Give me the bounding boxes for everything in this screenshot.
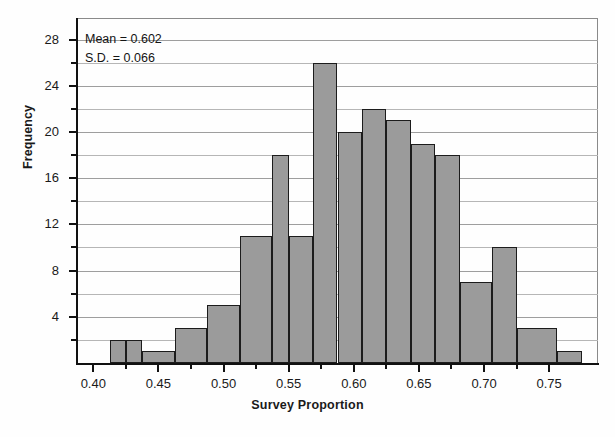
y-tick-minor <box>71 154 77 156</box>
x-tick-major <box>353 363 355 372</box>
x-tick-label: 0.55 <box>276 376 301 391</box>
histogram-bar <box>517 328 558 363</box>
x-tick-minor <box>190 363 192 369</box>
histogram-bar <box>240 236 273 363</box>
plot-frame-right <box>597 18 598 363</box>
histogram-bar <box>386 120 410 363</box>
y-tick-major: 28 <box>69 39 77 41</box>
y-tick-major: 16 <box>69 177 77 179</box>
x-axis-title: Survey Proportion <box>0 398 615 412</box>
x-tick-major <box>92 363 94 372</box>
y-axis-line <box>76 18 78 364</box>
histogram-bar <box>175 328 208 363</box>
y-tick-label: 4 <box>52 308 59 323</box>
x-tick-label: 0.40 <box>81 376 106 391</box>
x-tick-major <box>418 363 420 372</box>
histogram-bar <box>313 63 337 363</box>
x-tick-minor <box>125 363 127 369</box>
y-tick-label: 20 <box>45 123 59 138</box>
histogram-bar <box>435 155 459 363</box>
statistics-annotation: Mean = 0.602 S.D. = 0.066 <box>85 30 162 69</box>
histogram-bar <box>110 340 126 363</box>
mean-label: Mean = 0.602 <box>85 30 162 49</box>
histogram-bar <box>338 132 362 363</box>
y-axis-title: Frequency <box>21 57 35 217</box>
y-tick-label: 8 <box>52 262 59 277</box>
y-tick-minor <box>71 108 77 110</box>
x-tick-label: 0.65 <box>406 376 431 391</box>
histogram-bar <box>142 351 175 363</box>
histogram-bar <box>362 109 386 363</box>
y-tick-major: 20 <box>69 131 77 133</box>
histogram-bar <box>411 144 435 363</box>
gridline <box>77 109 598 110</box>
y-tick-minor <box>71 62 77 64</box>
x-tick-minor <box>255 363 257 369</box>
x-tick-minor <box>385 363 387 369</box>
plot-frame-top <box>77 18 598 19</box>
histogram-bar <box>289 236 313 363</box>
x-tick-label: 0.70 <box>471 376 496 391</box>
y-tick-major: 4 <box>69 316 77 318</box>
x-tick-major <box>157 363 159 372</box>
y-tick-minor <box>71 200 77 202</box>
x-tick-major <box>483 363 485 372</box>
y-tick-major: 24 <box>69 85 77 87</box>
histogram-bar <box>272 155 288 363</box>
x-tick-label: 0.45 <box>146 376 171 391</box>
y-tick-label: 16 <box>45 170 59 185</box>
y-tick-minor <box>71 293 77 295</box>
gridline <box>77 86 598 87</box>
sd-label: S.D. = 0.066 <box>85 49 162 68</box>
x-tick-major <box>288 363 290 372</box>
histogram-figure: Frequency 481216202428 0.400.450.500.550… <box>0 0 615 437</box>
x-tick-major <box>223 363 225 372</box>
histogram-bar <box>126 340 142 363</box>
y-tick-minor <box>71 339 77 341</box>
x-tick-major <box>548 363 550 372</box>
y-tick-major: 8 <box>69 270 77 272</box>
x-axis-line <box>76 363 599 365</box>
y-tick-label: 24 <box>45 77 59 92</box>
histogram-bar <box>557 351 581 363</box>
x-tick-minor <box>450 363 452 369</box>
plot-area: 481216202428 0.400.450.500.550.600.650.7… <box>77 28 598 363</box>
x-tick-label: 0.60 <box>341 376 366 391</box>
x-tick-label: 0.50 <box>211 376 236 391</box>
y-tick-label: 12 <box>45 216 59 231</box>
y-tick-major: 12 <box>69 223 77 225</box>
histogram-bar <box>460 282 493 363</box>
x-tick-minor <box>320 363 322 369</box>
x-tick-minor <box>516 363 518 369</box>
y-tick-label: 28 <box>45 31 59 46</box>
x-tick-label: 0.75 <box>537 376 562 391</box>
histogram-bar <box>207 305 240 363</box>
histogram-bar <box>492 247 516 363</box>
y-tick-minor <box>71 246 77 248</box>
